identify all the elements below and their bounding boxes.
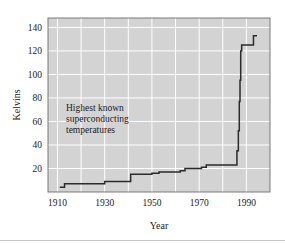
x-tick-label: 1910 bbox=[48, 198, 67, 208]
x-axis-title: Year bbox=[150, 220, 169, 231]
bottom-divider bbox=[0, 240, 285, 241]
x-tick-label: 1930 bbox=[95, 198, 114, 208]
superconducting-temperature-chart: 20406080100120140 19101930195019701990 K… bbox=[0, 0, 285, 243]
y-tick-label: 100 bbox=[28, 70, 43, 80]
y-tick-label: 120 bbox=[28, 46, 43, 56]
x-tick-label: 1990 bbox=[237, 198, 256, 208]
annotation-line-2: superconducting bbox=[66, 114, 129, 124]
y-tick-label: 140 bbox=[28, 23, 43, 33]
annotation-line-1: Highest known bbox=[66, 103, 124, 113]
y-axis-title: Kelvins bbox=[11, 89, 22, 120]
y-tick-label: 80 bbox=[33, 93, 43, 103]
y-tick-label: 60 bbox=[33, 117, 43, 127]
x-tick-label: 1970 bbox=[190, 198, 209, 208]
x-tick-label: 1950 bbox=[142, 198, 161, 208]
y-tick-label: 40 bbox=[33, 140, 43, 150]
annotation-line-3: temperatures bbox=[66, 125, 115, 135]
chart-figure: 20406080100120140 19101930195019701990 K… bbox=[0, 0, 285, 243]
y-tick-label: 20 bbox=[33, 164, 43, 174]
